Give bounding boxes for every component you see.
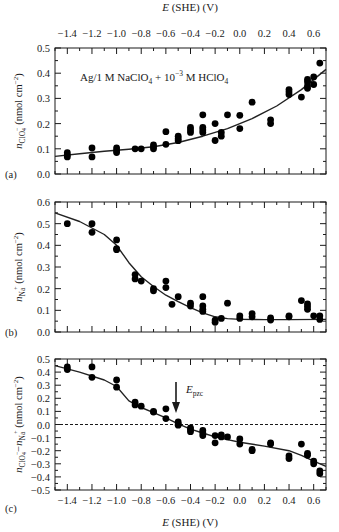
bottom-x-tick-label: 0.4 xyxy=(282,495,296,506)
data-point xyxy=(175,422,182,429)
chart-canvas: E (SHE) (V) −1.4−1.2−1.0−0.8−0.6−0.4−0.2… xyxy=(0,0,339,532)
data-point xyxy=(163,141,170,148)
bottom-x-tick-label: −1.2 xyxy=(82,495,101,506)
panel-a-clo4-adsorption: 0.00.10.20.30.40.5(a)nClO4− (nmol cm−2)A… xyxy=(5,43,326,181)
data-point xyxy=(249,313,256,320)
data-point xyxy=(150,409,157,416)
data-point xyxy=(187,428,194,435)
data-point xyxy=(224,300,231,307)
bottom-x-tick-label: −1.4 xyxy=(58,495,78,506)
epzc-label: Epzc xyxy=(185,383,204,398)
data-point xyxy=(212,439,219,446)
top-x-tick-label: −1.0 xyxy=(107,28,126,39)
bottom-axis-title: E (SHE) (V) xyxy=(161,516,218,529)
y-tick-label: 0.2 xyxy=(37,284,50,295)
data-point xyxy=(163,405,170,412)
data-point xyxy=(218,133,225,140)
data-point xyxy=(199,432,206,439)
y-tick-label: −0.1 xyxy=(31,433,50,444)
data-point xyxy=(286,455,293,462)
data-point xyxy=(304,85,311,92)
data-point xyxy=(236,125,243,132)
data-point xyxy=(199,308,206,315)
top-x-tick-label: 0.6 xyxy=(307,28,320,39)
y-axis-title: nClO4− (nmol cm−2) xyxy=(12,73,27,149)
data-point xyxy=(175,293,182,300)
y-tick-label: 0.3 xyxy=(37,93,50,104)
data-point xyxy=(113,377,120,384)
data-point xyxy=(199,111,206,118)
top-x-tick-label: −0.2 xyxy=(206,28,225,39)
fit-curve xyxy=(55,366,326,467)
data-point xyxy=(286,313,293,320)
data-point xyxy=(267,120,274,127)
data-point xyxy=(310,74,317,81)
top-x-tick-label: 0.0 xyxy=(233,28,246,39)
data-point xyxy=(89,154,96,161)
data-point xyxy=(113,237,120,244)
data-point xyxy=(163,415,170,422)
y-tick-label: 0.1 xyxy=(37,305,50,316)
panel-letter: (b) xyxy=(5,327,18,339)
data-point xyxy=(249,99,256,106)
y-tick-label: −0.2 xyxy=(31,446,50,457)
data-point xyxy=(138,278,145,285)
data-point xyxy=(316,316,323,323)
data-point xyxy=(89,220,96,227)
data-point xyxy=(310,312,317,319)
panel-letter: (a) xyxy=(5,169,17,181)
bottom-x-tick-label: −0.6 xyxy=(156,495,175,506)
data-point xyxy=(169,301,176,308)
data-point xyxy=(64,220,71,227)
data-point xyxy=(316,60,323,67)
data-point xyxy=(310,81,317,88)
data-point xyxy=(89,145,96,152)
y-axis-title: nClO4−−nNa+ (nmol cm−2) xyxy=(12,376,27,473)
data-point xyxy=(236,441,243,448)
data-point xyxy=(286,91,293,98)
plot-frame xyxy=(55,202,326,332)
y-tick-label: 0.6 xyxy=(37,197,50,208)
data-point xyxy=(236,315,243,322)
data-point xyxy=(298,441,305,448)
epzc-arrow-icon xyxy=(172,402,180,413)
data-point xyxy=(163,278,170,285)
bottom-x-tick-label: −0.2 xyxy=(206,495,225,506)
data-point xyxy=(132,402,139,409)
y-tick-label: 0.4 xyxy=(37,367,51,378)
data-point xyxy=(113,384,120,391)
data-point xyxy=(199,129,206,136)
y-tick-label: 0.2 xyxy=(37,393,50,404)
plot-frame xyxy=(55,48,326,174)
data-point xyxy=(298,94,305,101)
figure: E (SHE) (V) −1.4−1.2−1.0−0.8−0.6−0.4−0.2… xyxy=(0,0,339,532)
y-tick-label: 0.0 xyxy=(37,169,50,180)
data-point xyxy=(304,452,311,459)
data-point xyxy=(163,284,170,291)
bottom-x-tick-label: 0.0 xyxy=(233,495,246,506)
y-tick-label: 0.5 xyxy=(37,354,50,365)
bottom-x-tick-label: −0.8 xyxy=(132,495,151,506)
panel-b-na-adsorption: 0.00.10.20.30.40.50.6(b)nNa+ (nmol cm−2) xyxy=(5,197,326,339)
top-x-tick-labels: −1.4−1.2−1.0−0.8−0.6−0.4−0.20.00.20.40.6 xyxy=(58,28,320,39)
data-point xyxy=(132,145,139,152)
y-axis-title: nNa+ (nmol cm−2) xyxy=(12,232,27,302)
data-point xyxy=(267,441,274,448)
data-point xyxy=(89,364,96,371)
data-point xyxy=(212,120,219,127)
y-tick-label: −0.3 xyxy=(31,459,50,470)
y-tick-label: 0.0 xyxy=(37,420,50,431)
data-point xyxy=(212,319,219,326)
y-tick-label: 0.3 xyxy=(37,380,50,391)
panel-c-difference: −0.5−0.4−0.3−0.2−0.10.00.10.20.30.40.5(c… xyxy=(5,354,326,515)
electrolyte-annotation: Ag/1 M NaClO4 + 10−3 M HClO4 xyxy=(80,69,228,86)
data-point xyxy=(132,276,139,283)
bottom-x-tick-label: −0.4 xyxy=(181,495,201,506)
bottom-x-tick-label: −1.0 xyxy=(107,495,126,506)
y-tick-label: 0.5 xyxy=(37,43,50,54)
data-point xyxy=(138,145,145,152)
data-point xyxy=(187,303,194,310)
y-tick-label: 0.4 xyxy=(37,68,51,79)
data-point xyxy=(175,137,182,144)
top-x-tick-label: 0.2 xyxy=(258,28,271,39)
